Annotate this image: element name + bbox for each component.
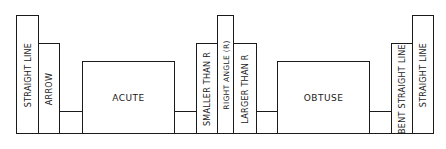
bar-straight-line-left: STRAIGHT LINE <box>16 15 39 133</box>
bar-label: SMALLER THAN R <box>203 51 212 125</box>
bar-label: LARGER THAN R <box>241 54 250 123</box>
bar-right-angle: RIGHT ANGLE (R) <box>217 15 234 133</box>
bar-label: STRAIGHT LINE <box>23 42 32 106</box>
connector-1 <box>59 111 83 133</box>
bar-straight-line-right: STRAIGHT LINE <box>412 15 434 133</box>
bar-obtuse: OBTUSE <box>277 61 370 133</box>
bar-smaller-than-r: SMALLER THAN R <box>196 43 218 133</box>
bar-acute: ACUTE <box>82 61 175 133</box>
connector-4 <box>369 111 392 133</box>
bar-bent-straight-line: BENT STRAIGHT LINE <box>391 43 413 133</box>
connector-3 <box>256 111 278 133</box>
bar-label: BENT STRAIGHT LINE <box>398 44 407 134</box>
bar-label: ACUTE <box>83 93 174 103</box>
bar-arrow: ARROW <box>38 43 60 133</box>
baseline <box>16 133 434 134</box>
connector-2 <box>174 111 197 133</box>
bar-label: STRAIGHT LINE <box>419 42 428 106</box>
bar-larger-than-r: LARGER THAN R <box>233 43 257 133</box>
bar-label: OBTUSE <box>278 93 369 103</box>
bar-label: RIGHT ANGLE (R) <box>221 40 230 109</box>
bar-label: ARROW <box>45 72 54 104</box>
